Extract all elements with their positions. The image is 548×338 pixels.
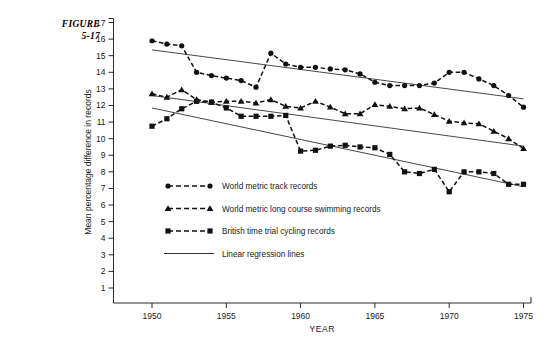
data-point-marker — [505, 135, 512, 141]
data-point-marker — [328, 144, 333, 149]
y-tick-label: 5 — [101, 217, 106, 227]
data-point-marker — [239, 78, 244, 83]
data-point-marker — [149, 38, 154, 43]
data-point-marker — [224, 105, 229, 110]
data-point-marker — [432, 80, 437, 85]
y-axis: 1234567891011121314151617 — [96, 18, 113, 304]
legend-label: British time trial cycling records — [222, 227, 335, 236]
data-point-marker — [461, 70, 466, 75]
y-tick-label: 14 — [96, 67, 106, 77]
data-point-marker — [402, 169, 407, 174]
x-axis-title: YEAR — [309, 324, 335, 334]
data-point-marker — [179, 106, 184, 111]
data-point-marker — [298, 149, 303, 154]
data-series — [149, 99, 526, 195]
y-axis-title: Mean percentage difference in records — [83, 89, 93, 234]
series-polyline — [152, 90, 524, 149]
y-tick-label: 16 — [96, 34, 106, 44]
x-axis: 195019551960196519701975 — [114, 297, 534, 321]
y-tick-label: 17 — [96, 18, 106, 28]
y-tick-label: 10 — [96, 134, 106, 144]
data-point-marker — [372, 101, 379, 107]
y-tick-label: 13 — [96, 84, 106, 94]
data-point-marker — [283, 61, 288, 66]
x-tick-label: 1975 — [514, 311, 533, 321]
data-point-marker — [343, 143, 348, 148]
x-tick-label: 1960 — [291, 311, 310, 321]
regression-lines-group — [152, 50, 524, 187]
data-series-group — [149, 38, 527, 194]
data-point-marker — [432, 167, 437, 172]
data-point-marker — [343, 67, 348, 72]
data-point-marker — [178, 86, 185, 92]
data-point-marker — [506, 93, 511, 98]
data-point-marker — [491, 171, 496, 176]
legend-marker — [207, 183, 212, 188]
y-tick-label: 1 — [101, 283, 106, 293]
data-point-marker — [476, 76, 481, 81]
data-point-marker — [402, 83, 407, 88]
regression-line — [152, 108, 524, 187]
data-point-marker — [506, 182, 511, 187]
x-tick-label: 1970 — [440, 311, 459, 321]
data-point-marker — [267, 96, 274, 102]
data-point-marker — [179, 43, 184, 48]
data-point-marker — [521, 105, 526, 110]
data-point-marker — [431, 111, 438, 117]
y-tick-label: 9 — [101, 150, 106, 160]
y-tick-label: 8 — [101, 167, 106, 177]
data-point-marker — [283, 113, 288, 118]
data-point-marker — [194, 70, 199, 75]
data-point-marker — [417, 83, 422, 88]
data-point-marker — [194, 99, 199, 104]
legend-label: World metric long course swimming record… — [222, 205, 381, 214]
data-point-marker — [298, 65, 303, 70]
data-point-marker — [209, 100, 214, 105]
legend-marker — [165, 228, 170, 233]
legend-marker — [165, 183, 170, 188]
y-tick-label: 3 — [101, 250, 106, 260]
series-polyline — [152, 101, 524, 191]
x-tick-label: 1950 — [143, 311, 162, 321]
legend-marker — [207, 228, 212, 233]
data-point-marker — [328, 66, 333, 71]
data-point-marker — [372, 80, 377, 85]
data-point-marker — [209, 73, 214, 78]
y-tick-label: 2 — [101, 266, 106, 276]
chart-canvas: 1234567891011121314151617 19501955196019… — [0, 0, 548, 338]
data-point-marker — [312, 98, 319, 104]
data-point-marker — [164, 116, 169, 121]
y-tick-label: 11 — [97, 117, 106, 127]
figure-root: FIGURE 5-17 1234567891011121314151617 19… — [0, 0, 548, 338]
x-tick-label: 1955 — [217, 311, 236, 321]
legend-label: World metric track records — [222, 182, 317, 191]
y-tick-label: 4 — [101, 233, 106, 243]
data-point-marker — [476, 169, 481, 174]
data-point-marker — [313, 148, 318, 153]
data-point-marker — [164, 41, 169, 46]
data-point-marker — [387, 83, 392, 88]
data-point-marker — [357, 71, 362, 76]
y-tick-label: 7 — [101, 183, 106, 193]
regression-line — [152, 96, 524, 147]
legend-label: Linear regression lines — [222, 250, 304, 259]
data-point-marker — [149, 91, 156, 97]
data-series — [149, 86, 527, 151]
data-point-marker — [238, 98, 245, 104]
data-point-marker — [224, 75, 229, 80]
y-tick-label: 6 — [101, 200, 106, 210]
data-point-marker — [253, 114, 258, 119]
data-point-marker — [313, 65, 318, 70]
data-point-marker — [372, 145, 377, 150]
data-point-marker — [357, 144, 362, 149]
data-point-marker — [447, 70, 452, 75]
data-point-marker — [447, 189, 452, 194]
y-tick-label: 15 — [96, 51, 106, 61]
data-point-marker — [239, 114, 244, 119]
data-point-marker — [387, 152, 392, 157]
data-point-marker — [491, 83, 496, 88]
data-point-marker — [521, 182, 526, 187]
data-point-marker — [461, 169, 466, 174]
data-point-marker — [268, 51, 273, 56]
chart-legend: World metric track recordsWorld metric l… — [164, 182, 381, 259]
